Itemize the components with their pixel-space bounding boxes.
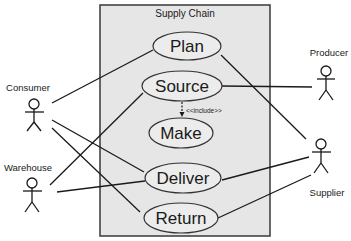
use-case-source[interactable]: Source [142, 71, 222, 101]
actor-label-warehouse: Warehouse [4, 162, 52, 173]
use-case-label: Return [155, 209, 206, 228]
actor-producer[interactable] [317, 66, 335, 100]
actor-label-supplier: Supplier [310, 187, 345, 198]
use-case-deliver[interactable]: Deliver [145, 163, 221, 193]
actor-supplier[interactable] [312, 139, 331, 173]
use-case-label: Make [160, 124, 202, 143]
system-title: Supply Chain [155, 8, 214, 19]
stick-figure-icon [321, 66, 331, 76]
actor-label-producer: Producer [310, 47, 349, 58]
use-case-make[interactable]: Make [149, 118, 213, 148]
stick-figure-icon [29, 99, 39, 109]
stick-figure-icon [316, 139, 326, 149]
use-case-return[interactable]: Return [144, 203, 218, 233]
include-label: <<include>> [186, 107, 222, 114]
use-case-plan[interactable]: Plan [153, 32, 221, 60]
actor-consumer[interactable] [25, 99, 44, 131]
actor-label-consumer: Consumer [6, 82, 50, 93]
stick-figure-icon [27, 178, 37, 188]
use-case-diagram: Supply Chain <<include>> Plan Source Mak… [0, 0, 351, 241]
use-case-label: Plan [170, 37, 204, 56]
use-case-label: Deliver [157, 169, 210, 188]
use-case-label: Source [155, 77, 209, 96]
actor-warehouse[interactable] [23, 178, 42, 212]
